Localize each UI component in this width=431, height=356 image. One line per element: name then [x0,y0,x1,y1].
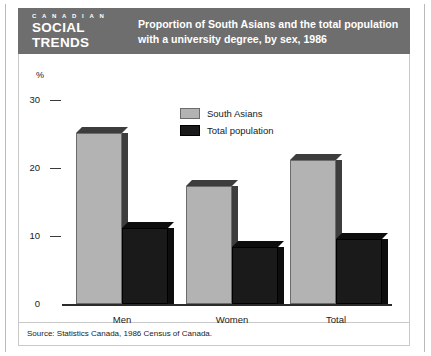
bar-side-face [278,247,284,304]
chart-title-line-1: Proportion of South Asians and the total… [138,17,400,32]
publication-logo: C A N A D I A N SOCIAL TRENDS [32,13,124,50]
bar-series-group [18,54,410,323]
bar-front-face [122,228,168,304]
bar [122,228,168,304]
bar [232,247,278,304]
header-banner: C A N A D I A N SOCIAL TRENDS Proportion… [18,8,410,54]
chart-legend: South AsiansTotal population [180,107,274,141]
legend-item: South Asians [180,107,274,120]
bar-front-face [232,247,278,304]
bar [336,239,382,304]
figure-card: C A N A D I A N SOCIAL TRENDS Proportion… [18,8,410,346]
logo-line-social: SOCIAL [32,21,124,36]
legend-label: South Asians [207,108,262,119]
chart-figure: C A N A D I A N SOCIAL TRENDS Proportion… [0,0,431,356]
footer-bar: Source: Statistics Canada, 1986 Census o… [18,323,410,346]
chart-title: Proportion of South Asians and the total… [138,17,400,47]
bar [290,160,336,304]
bar [76,133,122,304]
logo-line-trends: TRENDS [32,36,124,51]
legend-label: Total population [207,125,274,136]
bar-front-face [290,160,336,304]
legend-item: Total population [180,124,274,137]
bar-side-face [168,228,174,304]
bar-front-face [186,186,232,304]
bar-front-face [336,239,382,304]
legend-swatch [180,125,200,136]
legend-swatch [180,108,200,119]
logo-line-canadian: C A N A D I A N [32,13,124,19]
outer-border-right [424,4,425,352]
bar [186,186,232,304]
bar-front-face [76,133,122,304]
outer-border-left [5,4,6,352]
bar-side-face [382,239,388,304]
plot-area: % 0102030 MenWomenTotal South AsiansTota… [18,54,410,323]
chart-title-line-2: with a university degree, by sex, 1986 [138,32,400,47]
source-note: Source: Statistics Canada, 1986 Census o… [27,329,212,338]
